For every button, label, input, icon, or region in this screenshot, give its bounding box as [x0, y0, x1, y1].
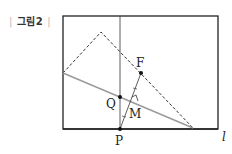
label-q: Q: [106, 97, 116, 111]
point-q: [118, 95, 122, 99]
point-f: [139, 71, 143, 75]
tick-mark-mp: [122, 116, 126, 117]
label-p: P: [115, 134, 123, 148]
dashed-fold-outline: [63, 32, 193, 128]
tick-mark-fm: [133, 88, 137, 89]
geometry-diagram: F Q M P l: [0, 0, 232, 154]
point-p: [118, 127, 122, 131]
label-line-l: l: [222, 130, 226, 144]
label-m: M: [129, 107, 141, 121]
right-angle-marker: [132, 95, 138, 101]
fold-line: [63, 73, 193, 128]
label-f: F: [136, 56, 144, 70]
